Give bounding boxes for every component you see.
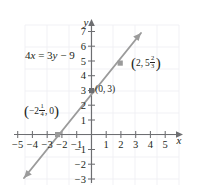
x-tick-label: 3 xyxy=(133,139,138,150)
y-tick-label: 2 xyxy=(81,100,86,111)
graph-canvas: −5 −4 −3 −2 −1 1 2 3 4 5 7 6 5 4 3 2 1 −… xyxy=(0,0,198,196)
label-point-x-intercept: (−214, 0) xyxy=(24,104,59,119)
y-tick-label: 5 xyxy=(81,56,86,67)
y-axis-label: y xyxy=(83,16,89,28)
marker-point-upper-right xyxy=(118,61,123,66)
y-tick-labels: 7 6 5 4 3 2 1 −1 −2 −3 xyxy=(75,26,87,185)
point1-separator: , xyxy=(141,58,143,68)
x-tick-label: −2 xyxy=(56,139,67,150)
close-paren: ) xyxy=(156,55,161,71)
y-axis-arrow xyxy=(88,19,95,26)
coordinate-graph-figure: −5 −4 −3 −2 −1 1 2 3 4 5 7 6 5 4 3 2 1 −… xyxy=(0,0,198,196)
x-tick-label: −4 xyxy=(27,139,39,150)
x-tick-label: 2 xyxy=(118,139,123,150)
x-axis-label: x xyxy=(176,134,182,146)
y-tick-label: −3 xyxy=(75,174,86,185)
y-tick-label: −1 xyxy=(75,144,86,155)
equation-lhs-var: x xyxy=(31,49,36,61)
equation-rhs-var: y xyxy=(53,49,58,61)
point3-separator: , xyxy=(45,106,47,116)
marker-point-x-intercept xyxy=(55,132,60,137)
equation-rhs-operator: − xyxy=(60,49,66,61)
x-tick-label: −5 xyxy=(12,139,23,150)
label-point-y-intercept: (0, 3) xyxy=(95,85,115,95)
y-tick-label: 1 xyxy=(81,115,86,126)
y-tick-label: 3 xyxy=(81,85,86,96)
equation-equals: = xyxy=(38,49,44,61)
fraction-denominator: 4 xyxy=(39,110,44,118)
close-paren: ) xyxy=(54,103,59,119)
point3-x-whole: −2 xyxy=(29,106,39,116)
x-tick-label: 5 xyxy=(163,139,168,150)
y-tick-label: 4 xyxy=(81,70,87,81)
x-tick-label: 4 xyxy=(148,139,154,150)
y-tick-label: −2 xyxy=(75,159,86,170)
axis-name-labels: x y xyxy=(83,16,182,146)
x-tick-label: −3 xyxy=(42,139,53,150)
y-tick-label: 6 xyxy=(81,41,86,52)
fraction-numerator: 2 xyxy=(150,55,155,62)
equation-rhs-constant: 9 xyxy=(69,49,75,61)
label-point-upper-right: (2, 523) xyxy=(131,56,161,71)
fraction-numerator: 1 xyxy=(39,103,44,110)
point2-close-paren: ) xyxy=(112,84,115,94)
point3-x-fraction: 14 xyxy=(39,103,44,117)
x-tick-label: 1 xyxy=(104,139,109,150)
x-tick-labels: −5 −4 −3 −2 −1 1 2 3 4 5 xyxy=(12,139,168,150)
point1-y-fraction: 23 xyxy=(150,55,155,69)
equation-annotation: 4x = 3y − 9 xyxy=(25,50,75,61)
point2-separator: , xyxy=(103,84,105,94)
marker-point-y-intercept xyxy=(89,88,94,93)
point1-y-whole: 5 xyxy=(145,58,150,68)
fraction-denominator: 3 xyxy=(150,62,155,70)
